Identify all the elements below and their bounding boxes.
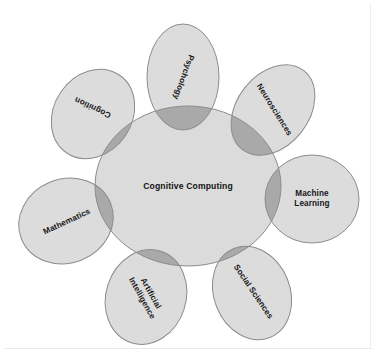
venn-diagram-shapes	[0, 0, 376, 357]
diagram-canvas: Cognitive Computing PsychologyNeuroscien…	[0, 0, 376, 357]
